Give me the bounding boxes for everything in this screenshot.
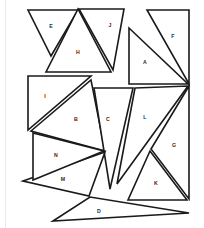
pieces-layer <box>23 9 189 221</box>
triangle-c-label: C <box>106 116 110 122</box>
triangle-d-label: D <box>97 208 101 214</box>
triangle-n-label: N <box>54 152 58 158</box>
triangle-f-label: F <box>171 33 174 39</box>
triangle-g-label: G <box>172 142 176 148</box>
triangle-b-label: B <box>74 116 78 122</box>
triangle-e-label: E <box>49 23 53 29</box>
triangle-dissection-figure: ABCDEFGHIJKLMN <box>0 0 204 228</box>
triangle-k-label: K <box>154 180 158 186</box>
triangle-m-label: M <box>61 176 66 182</box>
triangle-a-label: A <box>143 59 147 65</box>
triangle-h-label: H <box>76 49 80 55</box>
triangle-j-label: J <box>108 22 111 28</box>
puzzle-canvas: ABCDEFGHIJKLMN <box>0 0 204 228</box>
